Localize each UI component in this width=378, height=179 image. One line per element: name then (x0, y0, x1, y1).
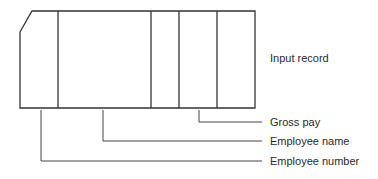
record-card-outline (20, 11, 255, 108)
gross-pay-leader-line (199, 110, 262, 122)
gross-pay-label: Gross pay (270, 117, 320, 128)
employee-number-leader-line (41, 110, 262, 161)
employee-name-label: Employee name (270, 136, 350, 147)
employee-name-leader-line (103, 110, 262, 141)
employee-number-label: Employee number (270, 156, 359, 167)
record-layout-diagram (0, 0, 378, 179)
input-record-label: Input record (270, 53, 329, 64)
